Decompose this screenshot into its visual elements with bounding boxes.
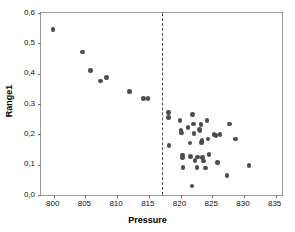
y-tick-label: 0,6	[9, 8, 35, 17]
x-tick	[276, 195, 277, 198]
data-point	[203, 166, 208, 171]
data-point	[190, 112, 195, 117]
data-point	[88, 68, 93, 73]
y-tick	[38, 195, 41, 196]
x-tick	[85, 195, 86, 198]
data-point	[205, 118, 210, 123]
x-tick	[244, 195, 245, 198]
data-point	[195, 155, 200, 160]
data-point	[181, 165, 186, 170]
x-tick-label: 825	[196, 199, 226, 208]
data-point	[167, 143, 172, 148]
data-point	[80, 50, 85, 55]
data-point	[225, 173, 230, 178]
y-tick-label: 0,1	[9, 159, 35, 168]
data-points-layer	[41, 13, 282, 195]
data-point	[233, 137, 238, 142]
x-tick-label: 820	[165, 199, 195, 208]
y-axis-title: Range1	[4, 71, 14, 131]
x-axis-title: Pressure	[0, 215, 295, 225]
x-tick-label: 830	[228, 199, 258, 208]
data-point	[146, 96, 151, 101]
data-point	[190, 184, 195, 189]
data-point	[195, 165, 200, 170]
data-point	[218, 132, 223, 137]
data-point	[227, 122, 232, 127]
x-tick	[212, 195, 213, 198]
data-point	[193, 158, 198, 163]
data-point	[215, 160, 220, 165]
data-point	[192, 131, 197, 136]
data-point	[179, 131, 184, 136]
data-point	[104, 75, 109, 80]
x-tick-label: 835	[260, 199, 290, 208]
data-point	[127, 89, 132, 94]
data-point	[180, 155, 185, 160]
data-point	[51, 27, 56, 32]
plot-area	[40, 12, 283, 196]
data-point	[191, 122, 196, 127]
data-point	[206, 137, 211, 142]
y-tick-label: 0,5	[9, 38, 35, 47]
data-point	[186, 125, 191, 130]
data-point	[247, 163, 252, 168]
scatter-chart: 800805810815820825830835 0,00,10,20,30,4…	[0, 0, 295, 232]
chart-title	[0, 0, 295, 5]
data-point	[98, 79, 103, 84]
data-point	[198, 129, 203, 134]
data-point	[201, 159, 206, 164]
x-tick-label: 815	[133, 199, 163, 208]
data-point	[199, 122, 204, 127]
data-point	[166, 115, 171, 120]
x-tick	[181, 195, 182, 198]
data-point	[178, 118, 183, 123]
x-tick	[117, 195, 118, 198]
data-point	[188, 141, 193, 146]
x-tick	[149, 195, 150, 198]
x-tick-label: 805	[69, 199, 99, 208]
data-point	[207, 152, 212, 157]
x-tick-label: 810	[101, 199, 131, 208]
y-tick-label: 0,0	[9, 190, 35, 199]
x-tick	[54, 195, 55, 198]
x-tick-label: 800	[38, 199, 68, 208]
